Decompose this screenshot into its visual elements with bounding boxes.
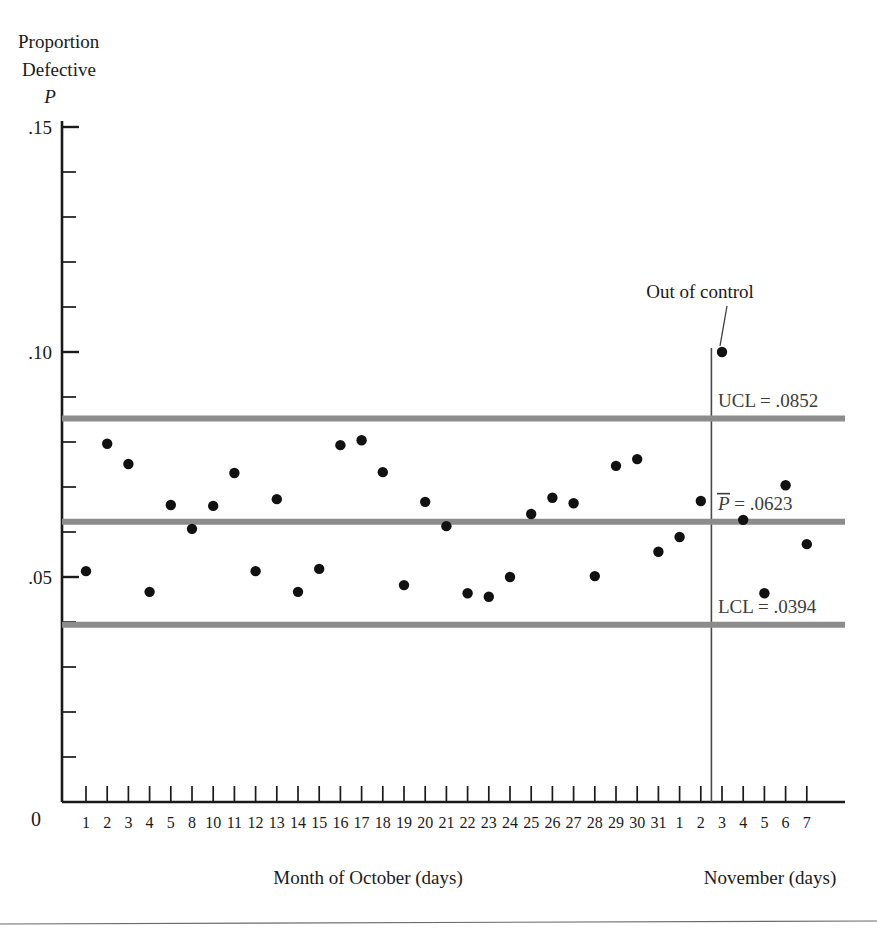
x-axis-tick-label: 1 <box>676 814 684 831</box>
data-point <box>802 539 812 549</box>
x-axis-tick-label: 8 <box>188 814 196 831</box>
y-axis-title-line2: Defective <box>22 59 96 80</box>
data-point <box>759 588 769 598</box>
x-axis-tick-label: 14 <box>290 814 306 831</box>
x-axis-tick-label: 17 <box>354 814 370 831</box>
x-axis-tick-label: 15 <box>311 814 327 831</box>
data-point <box>250 566 260 576</box>
origin-label: 0 <box>31 808 41 830</box>
data-point <box>632 454 642 464</box>
data-point <box>568 498 578 508</box>
data-point <box>293 587 303 597</box>
x-axis-tick-label: 24 <box>502 814 518 831</box>
x-axis-tick-label: 2 <box>103 814 111 831</box>
data-point <box>696 496 706 506</box>
x-axis-tick-label: 29 <box>608 814 624 831</box>
data-point <box>123 459 133 469</box>
data-point <box>378 467 388 477</box>
data-point <box>187 524 197 534</box>
y-axis-tick-label: .10 <box>28 342 52 363</box>
x-axis-tick-label: 21 <box>438 814 454 831</box>
x-axis-tick-label: 6 <box>782 814 790 831</box>
x-axis-tick-label: 26 <box>544 814 560 831</box>
data-point <box>441 521 451 531</box>
data-point <box>208 501 218 511</box>
x-axis-tick-label: 3 <box>124 814 132 831</box>
data-point <box>144 587 154 597</box>
x-axis-tick-label: 25 <box>523 814 539 831</box>
data-point <box>356 435 366 445</box>
x-axis-tick-label: 3 <box>718 814 726 831</box>
x-axis-tick-label: 5 <box>760 814 768 831</box>
data-point <box>81 566 91 576</box>
data-point <box>314 564 324 574</box>
x-axis-tick-label: 2 <box>697 814 705 831</box>
data-point <box>272 494 282 504</box>
ucl-label: UCL = .0852 <box>718 390 818 411</box>
x-axis-tick-label: 4 <box>146 814 154 831</box>
x-axis-tick-label: 11 <box>227 814 242 831</box>
data-point <box>229 468 239 478</box>
x-axis-tick-label: 31 <box>650 814 666 831</box>
data-point <box>505 572 515 582</box>
footer-rule <box>0 921 877 924</box>
x-axis-tick-label: 12 <box>248 814 264 831</box>
data-point <box>590 571 600 581</box>
data-point <box>738 515 748 525</box>
data-point <box>547 493 557 503</box>
x-axis-tick-label: 20 <box>417 814 433 831</box>
data-point <box>399 580 409 590</box>
y-axis-tick-label: .05 <box>28 567 52 588</box>
data-point <box>674 532 684 542</box>
x-axis-tick-label: 5 <box>167 814 175 831</box>
y-axis-tick-label: .15 <box>28 117 52 138</box>
out-of-control-label: Out of control <box>646 281 754 302</box>
x-axis-tick-label: 13 <box>269 814 285 831</box>
figure-container: ProportionDefectiveP.05.10.1501234581011… <box>0 0 877 934</box>
data-point <box>335 440 345 450</box>
data-point <box>717 347 727 357</box>
p-chart: ProportionDefectiveP.05.10.1501234581011… <box>0 0 877 934</box>
data-point <box>653 547 663 557</box>
x-axis-caption-october: Month of October (days) <box>273 867 462 889</box>
data-point <box>166 500 176 510</box>
center-line-label: P = .0623 <box>717 493 793 514</box>
x-axis-tick-label: 30 <box>629 814 645 831</box>
out-of-control-leader-line <box>720 306 727 346</box>
x-axis-tick-label: 19 <box>396 814 412 831</box>
x-axis-tick-label: 4 <box>739 814 747 831</box>
x-axis-tick-label: 10 <box>205 814 221 831</box>
data-point <box>611 461 621 471</box>
data-point <box>462 588 472 598</box>
x-axis-tick-label: 28 <box>587 814 603 831</box>
y-axis-symbol: P <box>43 86 56 107</box>
x-axis-tick-label: 16 <box>332 814 348 831</box>
y-axis-title-line1: Proportion <box>18 31 100 52</box>
data-point <box>526 509 536 519</box>
data-point <box>102 439 112 449</box>
x-axis-caption-november: November (days) <box>704 867 836 889</box>
x-axis-tick-label: 18 <box>375 814 391 831</box>
x-axis-tick-label: 7 <box>803 814 811 831</box>
data-point <box>420 497 430 507</box>
data-point <box>484 592 494 602</box>
lcl-label: LCL = .0394 <box>718 596 817 617</box>
data-point <box>780 480 790 490</box>
x-axis-tick-label: 23 <box>481 814 497 831</box>
x-axis-tick-label: 27 <box>566 814 582 831</box>
x-axis-tick-label: 22 <box>460 814 476 831</box>
x-axis-tick-label: 1 <box>82 814 90 831</box>
